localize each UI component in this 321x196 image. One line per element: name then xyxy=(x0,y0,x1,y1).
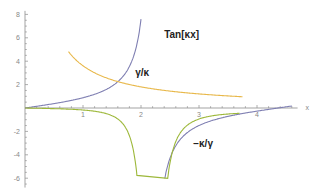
annotation-neg-kappa-over-gamma-curve: −κ/γ xyxy=(193,138,213,149)
y-tick-label: -2 xyxy=(14,128,20,135)
gamma-over-kappa-curve xyxy=(69,52,243,97)
y-tick-label: 2 xyxy=(16,81,20,88)
chart: 1234-6-4-22468x Tan[κx]γ/κ−κ/γ xyxy=(0,0,321,196)
x-tick-label: 4 xyxy=(255,111,259,118)
y-tick-label: -6 xyxy=(14,175,20,182)
tan-curve xyxy=(165,106,292,179)
y-tick-label: -4 xyxy=(14,151,20,158)
tan-curve xyxy=(25,19,141,108)
annotation-tan-curve: Tan[κx] xyxy=(164,29,199,40)
x-tick-label: 1 xyxy=(81,111,85,118)
x-tick-label: 3 xyxy=(197,111,201,118)
annotations: Tan[κx]γ/κ−κ/γ xyxy=(135,29,213,149)
series-group xyxy=(25,19,292,178)
y-tick-label: 6 xyxy=(16,34,20,41)
y-tick-label: 4 xyxy=(16,58,20,65)
annotation-gamma-over-kappa-curve: γ/κ xyxy=(135,67,149,78)
x-tick-label: 2 xyxy=(139,111,143,118)
x-axis-label: x xyxy=(306,104,310,111)
y-tick-label: 8 xyxy=(16,11,20,18)
axes: 1234-6-4-22468x xyxy=(14,11,310,188)
